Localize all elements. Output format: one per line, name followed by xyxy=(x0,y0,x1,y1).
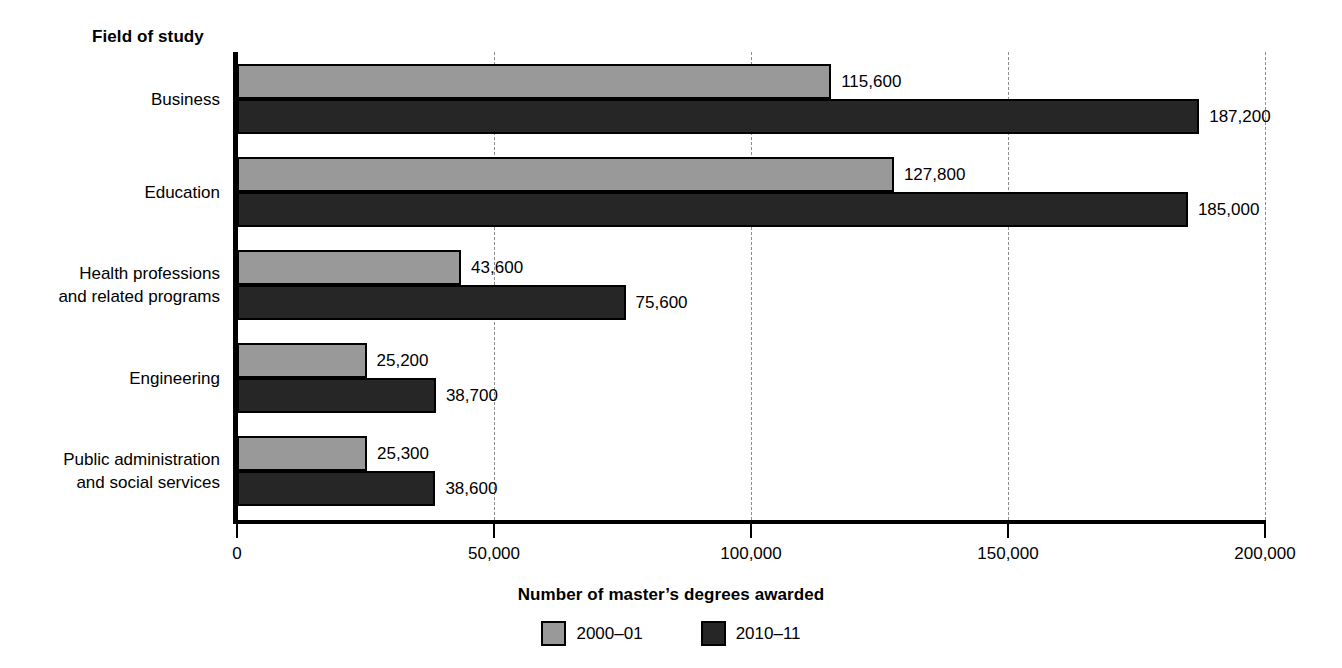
bar-2010-11-education xyxy=(237,192,1188,227)
bar-value-label: 75,600 xyxy=(636,293,688,313)
bar-2010-11-business xyxy=(237,99,1199,134)
category-label: Public administration and social service… xyxy=(63,448,220,494)
x-tick-label: 200,000 xyxy=(1234,544,1295,564)
bar-value-label: 25,200 xyxy=(377,351,429,371)
bar-2000-01-business xyxy=(237,64,831,99)
x-axis-title: Number of master’s degrees awarded xyxy=(0,585,1342,605)
category-label: Health professions and related programs xyxy=(58,262,220,308)
x-tick-label: 50,000 xyxy=(468,544,520,564)
legend-item[interactable]: 2010–11 xyxy=(701,621,801,646)
x-tick-label: 0 xyxy=(232,544,241,564)
chart-legend: 2000–012010–11 xyxy=(0,621,1342,646)
bar-2010-11-engineering xyxy=(237,378,436,413)
category-label: Education xyxy=(144,181,220,204)
bar-value-label: 115,600 xyxy=(841,72,901,92)
bar-value-label: 43,600 xyxy=(471,258,523,278)
bar-2000-01-health-professions-and-related-programs xyxy=(237,250,461,285)
bar-value-label: 185,000 xyxy=(1198,200,1259,220)
x-tick-label: 100,000 xyxy=(720,544,781,564)
category-label: Business xyxy=(151,88,220,111)
bar-value-label: 25,300 xyxy=(377,444,429,464)
chart-page: Field of study 050,000100,000150,000200,… xyxy=(0,0,1342,668)
x-tick xyxy=(1007,524,1009,538)
bar-2000-01-education xyxy=(237,157,894,192)
bar-value-label: 127,800 xyxy=(904,165,965,185)
bar-2000-01-engineering xyxy=(237,343,367,378)
legend-swatch-icon xyxy=(541,621,566,646)
legend-item[interactable]: 2000–01 xyxy=(541,621,642,646)
x-tick xyxy=(1264,524,1266,538)
category-label: Engineering xyxy=(129,367,220,390)
bar-2000-01-public-administration-and-social-services xyxy=(237,436,367,471)
bar-2010-11-public-administration-and-social-services xyxy=(237,471,435,506)
bar-2010-11-health-professions-and-related-programs xyxy=(237,285,626,320)
bar-value-label: 187,200 xyxy=(1209,107,1270,127)
x-tick xyxy=(750,524,752,538)
legend-swatch-icon xyxy=(701,621,726,646)
x-tick xyxy=(493,524,495,538)
legend-label: 2000–01 xyxy=(576,624,642,644)
legend-label: 2010–11 xyxy=(736,624,801,644)
plot-area: 050,000100,000150,000200,000 115,600187,… xyxy=(237,52,1265,520)
bar-value-label: 38,600 xyxy=(445,479,497,499)
x-tick-label: 150,000 xyxy=(977,544,1038,564)
bar-value-label: 38,700 xyxy=(446,386,498,406)
y-axis-title: Field of study xyxy=(92,27,204,47)
x-tick xyxy=(236,524,238,538)
